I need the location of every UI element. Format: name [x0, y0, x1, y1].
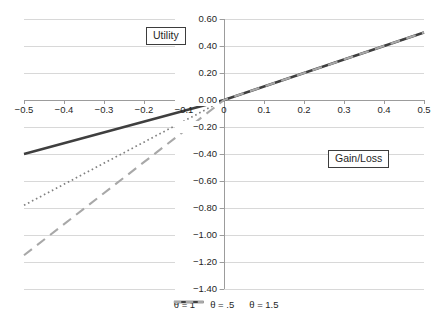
x-tick-label: −0.5: [9, 104, 39, 116]
y-tick-label: 0.00: [175, 94, 219, 106]
x-tick-label: −0.2: [129, 104, 159, 116]
y-tick-label: 0.20: [175, 67, 219, 79]
y-tick-label: −1.00: [175, 229, 219, 241]
legend-label: θ = 1.5: [249, 299, 278, 310]
y-tick-label: 0.60: [175, 13, 219, 25]
legend-item: θ = 1.5: [249, 299, 278, 310]
x-tick-label: 0.4: [369, 104, 399, 116]
y-tick-label: −0.80: [175, 202, 219, 214]
legend: θ = 1θ = .5θ = 1.5: [174, 299, 279, 310]
x-axis-title-box: Gain/Loss: [328, 150, 389, 168]
y-tick-label: −0.60: [175, 175, 219, 187]
y-tick-label: −1.20: [175, 256, 219, 268]
x-tick-label: −0.3: [89, 104, 119, 116]
y-tick-label: −0.20: [175, 121, 219, 133]
legend-label: θ = .5: [210, 299, 234, 310]
y-axis-title-box: Utility: [146, 27, 186, 45]
y-axis-title: Utility: [153, 29, 179, 41]
y-tick-label: −0.40: [175, 148, 219, 160]
legend-line-sample-dashed: [174, 299, 204, 305]
x-tick-label: 0.5: [409, 104, 439, 116]
x-tick-label: 0.3: [329, 104, 359, 116]
y-tick-label: −1.40: [175, 283, 219, 295]
legend-item: θ = .5: [210, 299, 234, 310]
x-tick-label: 0.1: [249, 104, 279, 116]
x-axis-title: Gain/Loss: [335, 152, 382, 164]
x-tick-label: −0.4: [49, 104, 79, 116]
x-tick-label: 0.2: [289, 104, 319, 116]
utility-chart: −0.5−0.4−0.3−0.2−0.100.10.20.30.40.5 0.6…: [0, 0, 446, 328]
